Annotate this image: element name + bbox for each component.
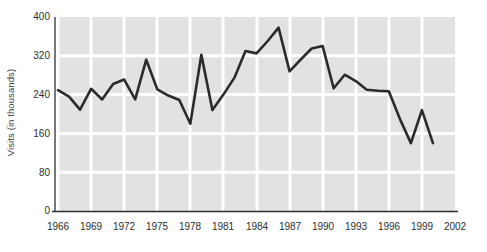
- x-tick-label: 2002: [435, 222, 475, 232]
- line-chart: Visits (in thousands) 400 320 240 160 80…: [0, 0, 487, 252]
- plot-area: [0, 0, 487, 252]
